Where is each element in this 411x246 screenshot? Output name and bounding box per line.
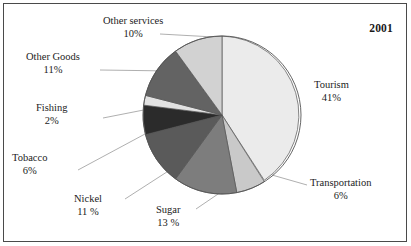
slice-label-sugar: Sugar 13 %	[156, 203, 181, 229]
slice-label-tobacco-pct: 6%	[12, 164, 47, 177]
slice-label-transportation: Transportation 6%	[310, 176, 371, 202]
slice-label-fishing-pct: 2%	[36, 114, 68, 127]
pie-chart-figure: 2001 Other services 10% Other Goods 11% …	[0, 0, 411, 246]
slice-label-transportation-pct: 6%	[310, 189, 371, 202]
slice-label-tourism-pct: 41%	[314, 91, 349, 104]
slice-label-tobacco-name: Tobacco	[12, 151, 47, 164]
slice-label-other-goods: Other Goods 11%	[26, 50, 80, 76]
slice-label-nickel: Nickel 11 %	[74, 192, 102, 218]
year-label: 2001	[369, 22, 393, 34]
slice-label-other-services-pct: 10%	[103, 27, 163, 40]
slice-label-tourism-name: Tourism	[314, 78, 349, 91]
slice-label-tobacco: Tobacco 6%	[12, 151, 47, 177]
slice-label-other-services-name: Other services	[103, 14, 163, 27]
pie-slices	[143, 36, 299, 194]
slice-label-fishing-name: Fishing	[36, 101, 68, 114]
leader-line-transportation	[272, 175, 307, 185]
slice-label-nickel-pct: 11 %	[74, 205, 102, 218]
slice-label-other-goods-pct: 11%	[26, 63, 80, 76]
slice-label-fishing: Fishing 2%	[36, 101, 68, 127]
leader-line-sugar	[196, 192, 221, 209]
slice-label-tourism: Tourism 41%	[314, 78, 349, 104]
slice-label-sugar-pct: 13 %	[156, 216, 181, 229]
slice-label-other-services: Other services 10%	[103, 14, 163, 40]
leader-line-nickel	[125, 168, 173, 199]
slice-label-transportation-name: Transportation	[310, 176, 371, 189]
slice-label-sugar-name: Sugar	[156, 203, 181, 216]
slice-label-other-goods-name: Other Goods	[26, 50, 80, 63]
slice-label-nickel-name: Nickel	[74, 192, 102, 205]
